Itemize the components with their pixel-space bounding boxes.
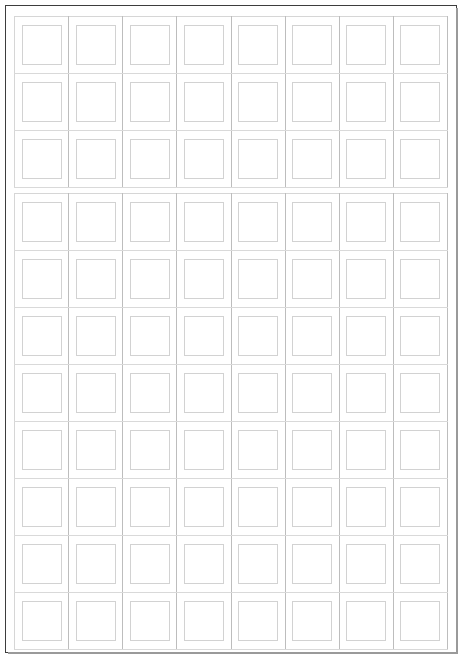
cell-input-box[interactable]: [292, 139, 332, 179]
cell-input-box[interactable]: [22, 544, 62, 584]
cell-input-box[interactable]: [238, 259, 278, 299]
cell-input-box[interactable]: [400, 430, 440, 470]
grid-cell[interactable]: [15, 74, 69, 131]
cell-input-box[interactable]: [130, 82, 170, 122]
grid-cell[interactable]: [339, 308, 393, 365]
grid-cell[interactable]: [339, 17, 393, 74]
grid-cell[interactable]: [285, 131, 339, 188]
cell-input-box[interactable]: [184, 25, 224, 65]
grid-cell[interactable]: [231, 251, 285, 308]
grid-cell[interactable]: [123, 251, 177, 308]
grid-cell[interactable]: [393, 251, 447, 308]
grid-cell[interactable]: [177, 131, 231, 188]
grid-cell[interactable]: [177, 593, 231, 650]
cell-input-box[interactable]: [346, 25, 386, 65]
grid-cell[interactable]: [393, 479, 447, 536]
grid-cell[interactable]: [231, 194, 285, 251]
cell-input-box[interactable]: [346, 373, 386, 413]
grid-cell[interactable]: [177, 308, 231, 365]
grid-cell[interactable]: [393, 74, 447, 131]
grid-cell[interactable]: [231, 422, 285, 479]
cell-input-box[interactable]: [76, 259, 116, 299]
cell-input-box[interactable]: [22, 259, 62, 299]
grid-cell[interactable]: [123, 131, 177, 188]
cell-input-box[interactable]: [184, 601, 224, 641]
cell-input-box[interactable]: [130, 259, 170, 299]
grid-cell[interactable]: [393, 365, 447, 422]
cell-input-box[interactable]: [130, 25, 170, 65]
cell-input-box[interactable]: [346, 139, 386, 179]
grid-cell[interactable]: [15, 194, 69, 251]
cell-input-box[interactable]: [292, 259, 332, 299]
grid-cell[interactable]: [231, 308, 285, 365]
grid-cell[interactable]: [393, 308, 447, 365]
grid-cell[interactable]: [393, 422, 447, 479]
grid-cell[interactable]: [285, 365, 339, 422]
grid-cell[interactable]: [15, 308, 69, 365]
grid-cell[interactable]: [123, 74, 177, 131]
cell-input-box[interactable]: [22, 487, 62, 527]
grid-cell[interactable]: [123, 17, 177, 74]
grid-cell[interactable]: [15, 131, 69, 188]
cell-input-box[interactable]: [292, 430, 332, 470]
grid-cell[interactable]: [69, 365, 123, 422]
grid-cell[interactable]: [339, 422, 393, 479]
cell-input-box[interactable]: [130, 316, 170, 356]
cell-input-box[interactable]: [400, 82, 440, 122]
cell-input-box[interactable]: [184, 259, 224, 299]
grid-cell[interactable]: [123, 365, 177, 422]
grid-cell[interactable]: [231, 365, 285, 422]
grid-cell[interactable]: [15, 251, 69, 308]
grid-cell[interactable]: [339, 74, 393, 131]
cell-input-box[interactable]: [130, 544, 170, 584]
grid-cell[interactable]: [177, 422, 231, 479]
cell-input-box[interactable]: [238, 25, 278, 65]
grid-cell[interactable]: [123, 308, 177, 365]
cell-input-box[interactable]: [76, 373, 116, 413]
grid-cell[interactable]: [231, 74, 285, 131]
cell-input-box[interactable]: [130, 487, 170, 527]
cell-input-box[interactable]: [184, 544, 224, 584]
cell-input-box[interactable]: [238, 487, 278, 527]
cell-input-box[interactable]: [184, 202, 224, 242]
cell-input-box[interactable]: [346, 544, 386, 584]
grid-cell[interactable]: [123, 536, 177, 593]
grid-cell[interactable]: [285, 536, 339, 593]
grid-cell[interactable]: [69, 593, 123, 650]
grid-cell[interactable]: [123, 194, 177, 251]
grid-cell[interactable]: [285, 479, 339, 536]
cell-input-box[interactable]: [76, 25, 116, 65]
grid-cell[interactable]: [177, 365, 231, 422]
grid-cell[interactable]: [15, 365, 69, 422]
grid-cell[interactable]: [123, 593, 177, 650]
cell-input-box[interactable]: [184, 316, 224, 356]
cell-input-box[interactable]: [76, 202, 116, 242]
grid-cell[interactable]: [177, 536, 231, 593]
cell-input-box[interactable]: [238, 139, 278, 179]
grid-cell[interactable]: [69, 251, 123, 308]
cell-input-box[interactable]: [346, 202, 386, 242]
cell-input-box[interactable]: [184, 373, 224, 413]
cell-input-box[interactable]: [400, 202, 440, 242]
grid-cell[interactable]: [285, 17, 339, 74]
cell-input-box[interactable]: [130, 430, 170, 470]
cell-input-box[interactable]: [400, 601, 440, 641]
grid-cell[interactable]: [285, 194, 339, 251]
grid-cell[interactable]: [339, 479, 393, 536]
cell-input-box[interactable]: [22, 139, 62, 179]
grid-cell[interactable]: [15, 479, 69, 536]
cell-input-box[interactable]: [238, 430, 278, 470]
cell-input-box[interactable]: [400, 139, 440, 179]
grid-cell[interactable]: [69, 17, 123, 74]
grid-cell[interactable]: [339, 251, 393, 308]
grid-cell[interactable]: [393, 194, 447, 251]
grid-cell[interactable]: [15, 17, 69, 74]
cell-input-box[interactable]: [346, 82, 386, 122]
cell-input-box[interactable]: [400, 25, 440, 65]
cell-input-box[interactable]: [346, 487, 386, 527]
cell-input-box[interactable]: [346, 259, 386, 299]
grid-cell[interactable]: [69, 536, 123, 593]
grid-cell[interactable]: [231, 536, 285, 593]
cell-input-box[interactable]: [346, 601, 386, 641]
cell-input-box[interactable]: [22, 430, 62, 470]
